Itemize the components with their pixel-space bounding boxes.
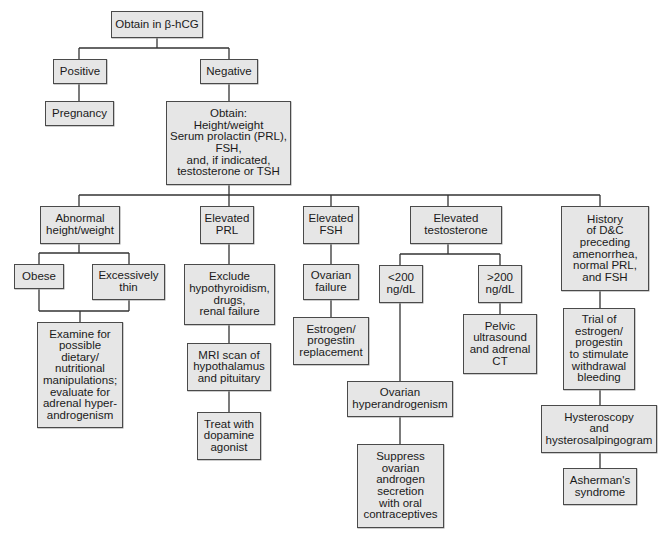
node-label: Elevated testosterone: [424, 213, 487, 236]
node-label: <200 ng/dL: [387, 272, 416, 295]
node-elevated-testosterone: Elevated testosterone: [410, 206, 502, 244]
node-negative: Negative: [200, 59, 258, 84]
node-label: Obese: [22, 271, 56, 283]
node-excessively-thin: Excessively thin: [92, 264, 165, 300]
flowchart: Obtain in β-hCG Positive Negative Pregna…: [0, 0, 668, 534]
node-label: Suppress ovarian androgen secretion with…: [363, 451, 437, 521]
node-label: Ovarian hyperandrogenism: [352, 387, 447, 410]
node-hysteroscopy: Hysteroscopy and hysterosalpingogram: [541, 405, 657, 453]
node-label: Positive: [60, 66, 100, 78]
node-ovarian-failure: Ovarian failure: [303, 264, 359, 300]
node-label: Excessively thin: [98, 270, 158, 293]
node-history-dc: History of D&C preceding amenorrhea, nor…: [561, 206, 649, 291]
node-label: Asherman's syndrome: [570, 475, 630, 498]
node-mri-scan: MRI scan of hypothalamus and pituitary: [187, 343, 271, 391]
node-label: History of D&C preceding amenorrhea, nor…: [572, 214, 637, 284]
node-pelvic-ultrasound: Pelvic ultrasound and adrenal CT: [463, 314, 537, 374]
node-label: Elevated PRL: [205, 213, 250, 236]
node-label: MRI scan of hypothalamus and pituitary: [193, 350, 265, 385]
node-label: Ovarian failure: [311, 270, 351, 293]
node-label: >200 ng/dL: [486, 272, 515, 295]
node-estrogen-replacement: Estrogen/ progestin replacement: [293, 317, 369, 365]
node-label: Abnormal height/weight: [46, 213, 114, 236]
node-label: Obtain in β-hCG: [115, 19, 198, 31]
node-label: Negative: [206, 66, 251, 78]
node-greater-than-200: >200 ng/dL: [478, 265, 522, 303]
node-obese: Obese: [14, 264, 64, 289]
node-label: Trial of estrogen/ progestin to stimulat…: [570, 314, 629, 384]
node-suppress-androgen: Suppress ovarian androgen secretion with…: [357, 444, 444, 528]
node-label: Pelvic ultrasound and adrenal CT: [470, 321, 531, 367]
node-label: Hysteroscopy and hysterosalpingogram: [546, 412, 653, 447]
node-elevated-prl: Elevated PRL: [200, 206, 254, 244]
node-positive: Positive: [53, 59, 107, 84]
node-less-than-200: <200 ng/dL: [379, 265, 423, 303]
node-dopamine-agonist: Treat with dopamine agonist: [197, 412, 261, 460]
node-label: Exclude hypothyroidism, drugs, renal fai…: [189, 271, 270, 317]
node-trial-estrogen: Trial of estrogen/ progestin to stimulat…: [563, 308, 635, 390]
node-label: Estrogen/ progestin replacement: [299, 324, 362, 359]
node-examine-dietary: Examine for possible dietary/ nutritiona…: [37, 322, 123, 428]
node-label: Obtain: Height/weight Serum prolactin (P…: [170, 108, 287, 178]
node-label: Treat with dopamine agonist: [204, 419, 255, 454]
node-abnormal-height-weight: Abnormal height/weight: [40, 206, 120, 244]
node-obtain-tests: Obtain: Height/weight Serum prolactin (P…: [166, 101, 291, 185]
node-ovarian-hyperandrogenism: Ovarian hyperandrogenism: [347, 381, 453, 417]
node-exclude-hypothyroidism: Exclude hypothyroidism, drugs, renal fai…: [184, 264, 275, 325]
node-label: Elevated FSH: [309, 213, 354, 236]
node-asherman-syndrome: Asherman's syndrome: [563, 468, 637, 505]
node-label: Pregnancy: [52, 108, 107, 120]
node-pregnancy: Pregnancy: [45, 101, 114, 126]
node-elevated-fsh: Elevated FSH: [303, 206, 359, 244]
node-obtain-hcg: Obtain in β-hCG: [111, 11, 203, 38]
node-label: Examine for possible dietary/ nutritiona…: [43, 329, 117, 422]
